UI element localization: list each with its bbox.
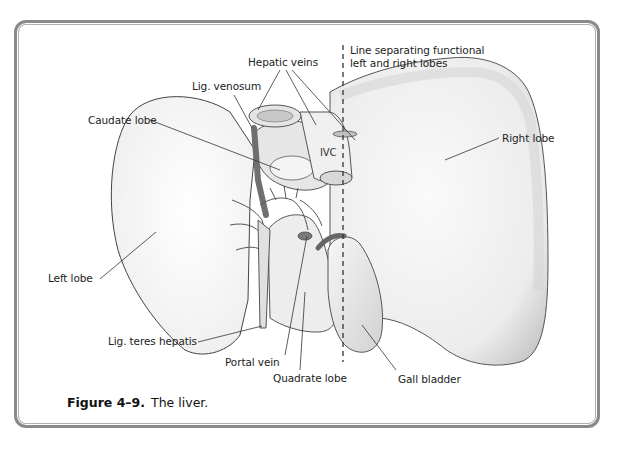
label-lig-teres-hepatis: Lig. teres hepatis	[108, 335, 197, 348]
label-right-lobe: Right lobe	[502, 132, 554, 145]
label-midline-line-1: Line separating functional	[350, 44, 484, 57]
label-hepatic-veins: Hepatic veins	[248, 56, 318, 69]
lig-teres-shape	[258, 220, 270, 328]
label-portal-vein: Portal vein	[225, 356, 280, 369]
left-lobe-shape	[111, 97, 255, 354]
figure-caption: Figure 4–9.The liver.	[67, 395, 208, 410]
label-left-lobe: Left lobe	[48, 272, 93, 285]
label-gall-bladder: Gall bladder	[398, 373, 461, 386]
label-quadrate-lobe: Quadrate lobe	[273, 372, 347, 385]
label-caudate-lobe: Caudate lobe	[88, 114, 157, 127]
figure-number: Figure 4–9.	[67, 395, 145, 410]
label-midline-line-2: left and right lobes	[350, 57, 447, 70]
label-lig-venosum: Lig. venosum	[192, 80, 261, 93]
label-ivc: IVC	[320, 146, 336, 159]
figure-title: The liver.	[151, 395, 208, 410]
